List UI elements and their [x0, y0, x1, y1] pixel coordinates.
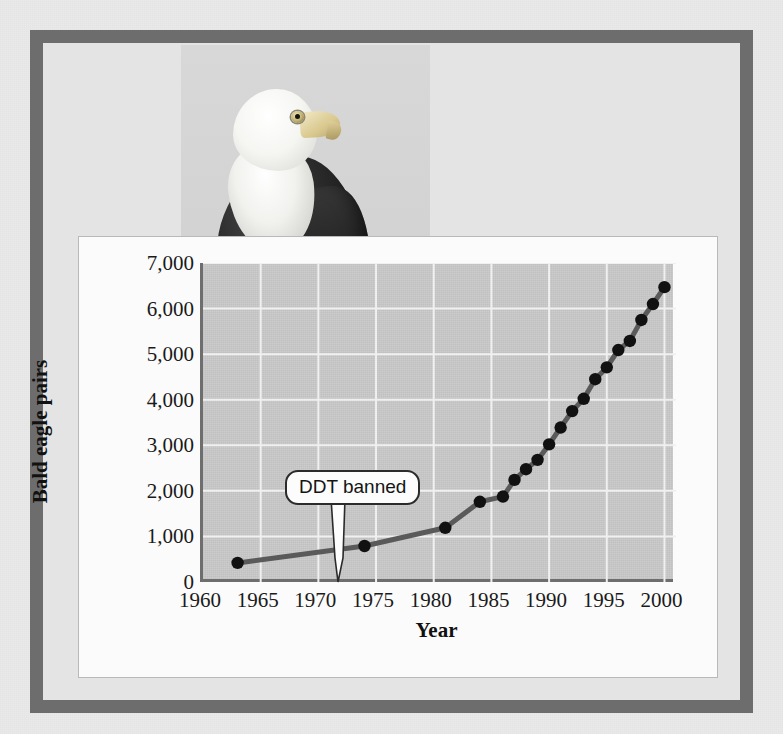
x-tick-label: 1960 — [179, 588, 221, 613]
x-axis-tick-labels: 196019651970197519801985199019952000 — [200, 588, 680, 618]
y-axis-title: Bald eagle pairs — [28, 307, 53, 557]
x-tick-label: 1980 — [410, 588, 452, 613]
y-tick-label: 2,000 — [98, 481, 194, 502]
ddt-banned-callout: DDT banned — [285, 470, 420, 505]
y-tick-label: 3,000 — [98, 435, 194, 456]
y-tick-label: 4,000 — [98, 390, 194, 411]
x-tick-label: 1995 — [583, 588, 625, 613]
y-tick-label: 6,000 — [98, 299, 194, 320]
x-tick-label: 2000 — [640, 588, 682, 613]
x-tick-label: 1970 — [294, 588, 336, 613]
x-tick-label: 1990 — [525, 588, 567, 613]
y-axis-tick-labels: 01,0002,0003,0004,0005,0006,0007,000 — [98, 0, 194, 600]
x-tick-label: 1975 — [352, 588, 394, 613]
y-tick-label: 7,000 — [98, 253, 194, 274]
x-tick-label: 1985 — [467, 588, 509, 613]
y-tick-label: 5,000 — [98, 344, 194, 365]
y-tick-label: 1,000 — [98, 526, 194, 547]
x-axis-title: Year — [200, 618, 673, 643]
ddt-callout-pointer — [305, 496, 515, 591]
eagle-eye-pupil — [295, 114, 300, 119]
x-tick-label: 1965 — [237, 588, 279, 613]
